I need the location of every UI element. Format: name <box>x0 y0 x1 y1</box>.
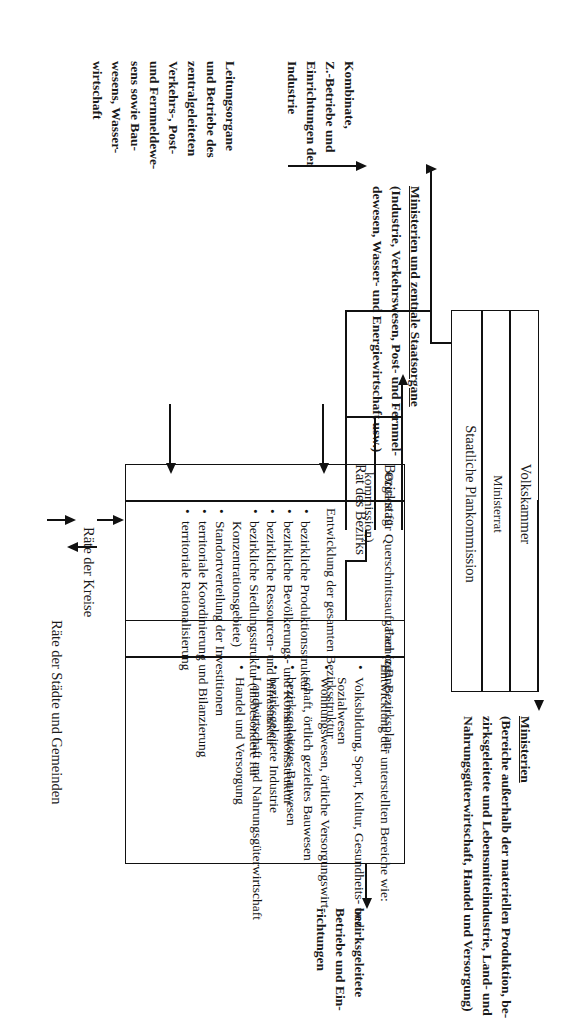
querschnitt-header-line-2: kommission) <box>361 472 377 543</box>
fachorgane-header-divider <box>125 656 405 658</box>
ministerien-link-h <box>537 500 539 692</box>
raete-der-kreise-label: Räte der Kreise <box>79 527 97 617</box>
betriebe-feed-h <box>365 864 367 900</box>
arrow-ministerien-to-kombinate-shaft <box>288 165 358 167</box>
kombinate-line-2: Z.-Betriebe und <box>322 61 338 153</box>
leitungsorgane-line-2: und Betriebe des <box>203 61 219 158</box>
central-row-volkskammer: Volkskammer <box>516 404 534 604</box>
rat-to-fachorgane-top <box>365 530 367 562</box>
list-item-continuation: Sozialwesen <box>334 664 350 928</box>
ministerien-zentrale-heading: Ministerien und zentrale Staatsorgane <box>407 186 423 407</box>
arrow-to-bezirksgeleitete-betriebe <box>362 898 372 909</box>
arrow-up-to-ministerien-zentrale <box>426 164 437 174</box>
list-item: Handel und Versorgung <box>232 664 248 928</box>
connector-rat-to-ministerien-shaft <box>345 310 347 418</box>
rat-bezirks-bracket-left <box>346 416 376 418</box>
fachorgane-bullet-list: Volksbildung, Sport, Kultur, Gesundheits… <box>231 664 367 928</box>
kreise-arrow-up-head <box>113 515 124 525</box>
diagram-canvas: Volkskammer Ministerrat Staatliche Plank… <box>0 0 563 1029</box>
arrow-ministerien-to-kombinate-head <box>356 161 367 171</box>
bezirkstag-bracket-left <box>375 416 403 418</box>
ministerien-line-3: Nahrungsgüterwirtschaft, Handel und Vers… <box>460 716 476 1012</box>
gemeinden-arrow-up-shaft <box>47 519 67 521</box>
rat-to-fachorgane-riser <box>346 560 367 562</box>
ministerien-line-1: (Bereiche außerhalb der materiellen Prod… <box>498 716 514 1018</box>
bezirksgeleitete-betriebe-line-2: Betriebe und Ein- <box>332 908 348 1011</box>
kombinate-line-3: Einrichtungen der <box>303 61 319 167</box>
arrow-to-ministerien <box>534 700 544 711</box>
connector-bezirkstag-to-central-head <box>398 374 408 385</box>
leitungsorgane-line-5: und Fernmeldewe- <box>146 61 162 169</box>
connector-central-to-ministerien-h <box>430 168 432 344</box>
connector-rat-to-ministerien-riser <box>346 310 432 312</box>
central-row-ministerrat: Ministerrat <box>490 404 506 604</box>
raete-staedte-gemeinden-label: Räte der Städte und Gemeinden <box>47 620 65 804</box>
ministerien-line-2: zirksgeleitete und Lebensmittelindustrie… <box>479 716 495 1016</box>
ministerien-heading: Ministerien <box>517 716 533 783</box>
bezirksgeleitete-betriebe-line-1: bezirksgeleitete <box>351 908 367 997</box>
rat-to-fachorgane-h <box>345 560 347 620</box>
list-item: Landwirtschaft und Nahrungsgüterwirtscha… <box>249 664 265 928</box>
kreise-arrow-down-shaft <box>77 546 97 548</box>
bezirksgeleitete-betriebe-line-3: richtungen <box>313 908 329 971</box>
list-item: bezirksgeleitetes Bauwesen <box>283 664 299 928</box>
gemeinden-arrow-up-head <box>65 515 76 525</box>
connector-central-to-ministerien-v <box>431 342 451 344</box>
leitungsorgane-line-3: zentralgeleiteten <box>184 61 200 156</box>
list-item: bezirksgeleitete Industrie <box>266 664 282 928</box>
central-row-plankommission: Staatliche Plankommission <box>461 404 479 604</box>
leitungsorgane-line-8: wirtschaft <box>89 61 105 119</box>
fachorgane-intro: Entwicklung der unterstellten Bereiche w… <box>377 664 393 902</box>
kreise-arrow-down-head <box>67 542 78 552</box>
central-box-divider-2 <box>481 310 483 692</box>
leitungsorgane-line-4: Verkehrs-, Post- <box>165 61 181 154</box>
kombinate-line-1: Kombinate, <box>341 61 357 129</box>
leitungsorgane-line-6: sens sowie Bau- <box>127 61 143 151</box>
central-box-divider-1 <box>509 310 511 692</box>
kombinate-line-4: Industrie <box>284 61 300 114</box>
ministerien-zentrale-line-2: dewesen, Wasser- und Energiewirtschaft u… <box>369 186 385 452</box>
arrow-leitungsorgane-to-box-shaft <box>169 404 171 464</box>
leitungsorgane-line-7: wesens, Wasser- <box>108 61 124 153</box>
leitungsorgane-line-1: Leitungsorgane <box>222 61 238 151</box>
connector-bezirkstag-to-central-shaft <box>401 382 403 418</box>
list-item-continuation: schaft, örtlich gezieltes Bauwesen <box>300 664 316 928</box>
list-item: Wohnungswesen, örtliche Versorgungswirt- <box>317 664 333 928</box>
arrow-kombinate-to-box-shaft <box>322 404 324 464</box>
